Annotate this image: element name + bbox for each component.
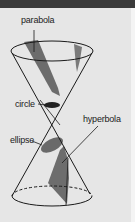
lower-cone-base-front: [12, 196, 92, 206]
circle-leader: [38, 104, 45, 105]
lower-cone-base-back: [12, 186, 92, 196]
parabola-label: parabola: [21, 15, 54, 25]
hyperbola-lower-branch: [48, 146, 69, 204]
hyperbola-label: hyperbola: [83, 114, 121, 124]
circle-label: circle: [15, 99, 35, 109]
ellipse-label: ellipse: [10, 135, 34, 145]
circle-section: [44, 102, 60, 108]
parabola-section: [24, 40, 60, 96]
hyperbola-leader: [62, 126, 98, 163]
double-cone-diagram: [0, 0, 135, 222]
